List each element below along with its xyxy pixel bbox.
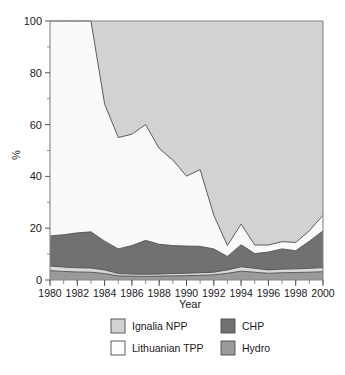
y-tick-label: 20 (30, 222, 42, 234)
x-axis-title-text: Year (179, 298, 202, 310)
y-axis-title: % (10, 150, 22, 160)
x-tick-label: 1982 (66, 287, 90, 299)
legend-swatch-lithuanian-tpp (111, 341, 125, 355)
x-tick-label: 1988 (148, 287, 172, 299)
chart-figure: 020406080100 198019821984198619881990199… (0, 0, 345, 375)
y-axis-title-text: % (10, 150, 22, 160)
legend-swatch-hydro (221, 341, 235, 355)
x-tick-label: 1984 (93, 287, 117, 299)
legend-label-chp: CHP (242, 320, 264, 332)
x-tick-label: 1992 (202, 287, 226, 299)
y-axis-ticks: 020406080100 (24, 15, 50, 286)
legend-label-lithuanian-tpp: Lithuanian TPP (132, 342, 204, 354)
legend-swatch-ignalia-npp (111, 319, 125, 333)
y-tick-label: 80 (30, 67, 42, 79)
x-tick-label: 1998 (284, 287, 308, 299)
y-tick-label: 60 (30, 119, 42, 131)
x-tick-label: 1994 (229, 287, 253, 299)
area-series-group (50, 21, 323, 280)
x-axis-ticks: 1980198219841986198819901992199419961998… (38, 280, 335, 299)
y-tick-label: 0 (36, 274, 42, 286)
chart-legend: Ignalia NPPCHPLithuanian TPPHydro (111, 319, 270, 355)
x-tick-label: 1996 (257, 287, 281, 299)
legend-label-ignalia-npp: Ignalia NPP (132, 320, 187, 332)
legend-swatch-chp (221, 319, 235, 333)
x-tick-label: 1986 (120, 287, 144, 299)
y-tick-label: 100 (24, 15, 42, 27)
x-tick-label: 2000 (311, 287, 335, 299)
x-tick-label: 1980 (38, 287, 62, 299)
stacked-area-chart: 020406080100 198019821984198619881990199… (0, 0, 345, 375)
legend-label-hydro: Hydro (242, 342, 270, 354)
y-tick-label: 40 (30, 170, 42, 182)
